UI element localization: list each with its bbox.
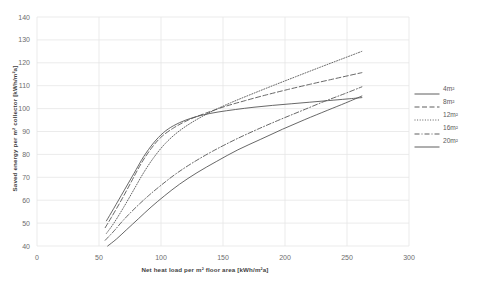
legend-item[interactable]: 12m²: [414, 110, 486, 118]
legend-item[interactable]: 16m²: [414, 124, 486, 132]
legend-item-label: 16m²: [443, 124, 458, 131]
x-axis-title: Net heat load per m² floor area [kWh/m²a…: [0, 266, 410, 273]
legend-item-label: 12m²: [443, 111, 458, 118]
chart-legend: 4m²8m²12m²16m²20m²: [414, 84, 486, 145]
legend-item[interactable]: 20m²: [414, 137, 486, 145]
legend-line-swatch: [414, 97, 440, 105]
legend-item[interactable]: 8m²: [414, 97, 486, 105]
legend-line-swatch: [414, 137, 440, 145]
legend-line-swatch: [414, 84, 440, 92]
legend-line-swatch: [414, 124, 440, 132]
legend-line-swatch: [414, 110, 440, 118]
legend-item-label: 20m²: [443, 137, 458, 144]
legend-item-label: 8m²: [443, 98, 454, 105]
legend-item-label: 4m²: [443, 85, 454, 92]
series-line-8m2: [105, 73, 362, 228]
series-line-4m2: [106, 98, 361, 221]
legend-item[interactable]: 4m²: [414, 84, 486, 92]
chart-container: Saved energy per m² collector [kWh/m²a] …: [0, 0, 491, 289]
series-line-12m2: [106, 51, 361, 233]
